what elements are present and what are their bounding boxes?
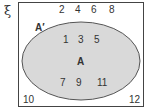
element-11: 11	[97, 77, 107, 88]
set-a-ellipse	[0, 0, 147, 109]
element-10: 10	[23, 94, 34, 105]
element-3: 3	[78, 34, 84, 45]
element-2: 2	[59, 4, 65, 15]
element-8: 8	[109, 4, 115, 15]
element-7: 7	[60, 77, 66, 88]
element-4: 4	[75, 4, 81, 15]
element-12: 12	[129, 94, 140, 105]
element-5: 5	[94, 34, 100, 45]
set-a-label: A	[77, 56, 84, 67]
element-9: 9	[76, 77, 82, 88]
element-6: 6	[91, 4, 97, 15]
complement-label: A′	[35, 22, 45, 33]
element-1: 1	[63, 34, 69, 45]
